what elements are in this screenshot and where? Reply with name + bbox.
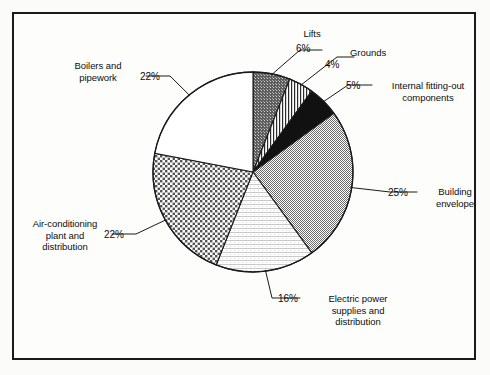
pie-chart-figure: Lifts 6% Grounds 4% Internal fitting-out… xyxy=(0,0,490,375)
slice-value-electric-power: 16% xyxy=(278,293,310,304)
slice-label-electric-power: Electric power supplies and distribution xyxy=(312,293,404,328)
slice-value-lifts: 6% xyxy=(296,43,326,54)
slice-value-internal-fitting-out: 5% xyxy=(346,80,374,91)
slice-label-air-conditioning: Air-conditioning plant and distribution xyxy=(16,218,114,253)
slice-label-internal-fitting-out: Internal fitting-out components xyxy=(374,80,482,103)
slice-label-grounds: Grounds xyxy=(350,47,410,59)
slice-value-air-conditioning: 22% xyxy=(104,229,136,240)
slice-value-grounds: 4% xyxy=(325,59,353,70)
slice-value-building-envelope: 25% xyxy=(388,187,420,198)
slice-label-boilers: Boilers and pipework xyxy=(58,60,138,83)
slice-label-building-envelope: Building envelope xyxy=(424,186,486,209)
slice-value-boilers: 22% xyxy=(140,71,172,82)
slice-label-lifts: Lifts xyxy=(288,28,336,40)
